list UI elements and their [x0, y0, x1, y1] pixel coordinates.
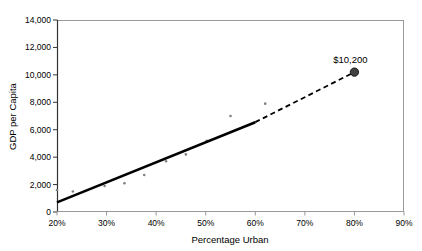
- y-tick-label: 8,000: [30, 97, 52, 107]
- x-tick-label: 70%: [296, 218, 313, 228]
- x-tick-label: 20%: [48, 218, 65, 228]
- scatter-point: [143, 174, 146, 177]
- annotation-layer: $10,200: [333, 54, 367, 65]
- y-tick-label: 12,000: [25, 42, 51, 52]
- scatter-point: [185, 153, 188, 156]
- x-tick-label: 90%: [395, 218, 412, 228]
- y-tick-label: 14,000: [25, 15, 51, 25]
- gdp-per-capita-scatter-chart: 02,0004,0006,0008,00010,00012,00014,000 …: [0, 0, 422, 251]
- x-tick-label: 50%: [197, 218, 214, 228]
- x-tick-label: 60%: [247, 218, 264, 228]
- x-axis-title: Percentage Urban: [191, 234, 268, 245]
- y-tick-label: 2,000: [30, 180, 52, 190]
- data-series-layer: [56, 68, 359, 202]
- y-tick-label: 0: [46, 207, 51, 217]
- y-tick-label: 6,000: [30, 125, 52, 135]
- scatter-point: [72, 190, 75, 193]
- y-axis-ticks: 02,0004,0006,0008,00010,00012,00014,000: [25, 15, 58, 217]
- x-tick-label: 40%: [148, 218, 165, 228]
- y-axis-title: GDP per Capita: [7, 82, 18, 150]
- scatter-point: [103, 185, 106, 188]
- scatter-point: [165, 160, 168, 163]
- scatter-point: [229, 115, 232, 118]
- scatter-point: [56, 189, 59, 192]
- x-tick-label: 80%: [346, 218, 363, 228]
- y-tick-label: 10,000: [25, 70, 51, 80]
- fitted-trend-line: [57, 122, 255, 202]
- y-tick-label: 4,000: [30, 152, 52, 162]
- scatter-point: [123, 182, 126, 185]
- projected-value-marker: [350, 68, 358, 76]
- chart-canvas: 02,0004,0006,0008,00010,00012,00014,000 …: [0, 0, 422, 251]
- x-axis-ticks: 20%30%40%50%60%70%80%90%: [48, 212, 412, 229]
- x-tick-label: 30%: [98, 218, 115, 228]
- projected-value-label: $10,200: [333, 54, 367, 65]
- scatter-point: [264, 102, 267, 105]
- projected-trend-line: [255, 72, 354, 122]
